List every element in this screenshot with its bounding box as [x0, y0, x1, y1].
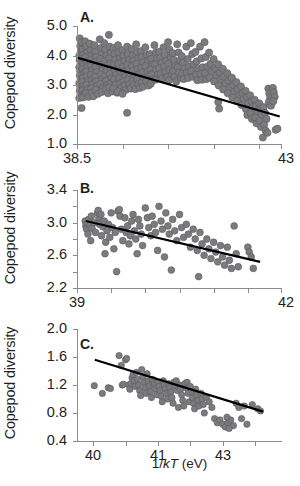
data-point — [139, 366, 145, 372]
panel-c-y-tick-label: 1.2 — [47, 376, 67, 392]
panel-a-x-tick — [77, 145, 78, 149]
panel-a-y-tick-label: 3.0 — [47, 76, 67, 92]
data-point — [161, 254, 168, 261]
panel-b-x-tick — [214, 289, 215, 293]
panel-b-y-tick-label: 2.6 — [47, 246, 67, 262]
x-axis-title: 1/kT (eV) — [77, 456, 282, 471]
data-point — [99, 390, 105, 396]
panel-a-x-tick — [259, 145, 260, 149]
data-point — [197, 229, 204, 236]
data-point — [195, 273, 202, 280]
data-point — [178, 392, 184, 398]
data-point — [126, 241, 133, 248]
panel-c-y-tick — [73, 441, 77, 442]
panel-a-x-tick — [123, 145, 124, 149]
data-point — [91, 383, 97, 389]
data-point — [270, 98, 277, 105]
panel-b-x-tick — [145, 289, 146, 293]
panel-a-scatter-svg — [77, 26, 282, 144]
panel-c-plot-area: 0.40.81.21.62.0404143 — [77, 329, 282, 441]
panel-c-x-tick — [126, 442, 127, 446]
data-point — [158, 218, 165, 225]
data-point — [171, 227, 178, 234]
panel-c-y-tick-label: 1.6 — [47, 348, 67, 364]
panel-a-y-tick — [73, 115, 77, 116]
x-axis-title-suffix: (eV) — [178, 456, 207, 471]
panel-b-y-tick — [73, 239, 77, 240]
panel-c-x-tick — [255, 442, 256, 446]
panel-a-letter: A. — [80, 9, 94, 25]
data-point — [130, 211, 137, 218]
panel-b-x-tick — [111, 289, 112, 293]
data-point — [162, 209, 169, 216]
data-point — [168, 389, 174, 395]
data-point — [216, 105, 223, 112]
data-point — [102, 250, 109, 257]
panel-c-y-tick — [73, 357, 77, 358]
data-point — [209, 404, 215, 410]
panel-b: Copepod diversity B. 2.22.63.03.43942 — [0, 168, 300, 318]
data-point — [108, 209, 115, 216]
data-point — [134, 250, 141, 257]
panel-c-x-axis-line — [77, 441, 282, 442]
data-point — [123, 355, 129, 361]
data-point — [98, 232, 105, 239]
data-point — [228, 265, 235, 272]
data-point — [119, 90, 126, 97]
data-point — [201, 252, 208, 259]
panel-b-plot-area: 2.22.63.03.43942 — [77, 190, 282, 288]
panel-b-x-tick — [180, 289, 181, 293]
data-point — [135, 216, 142, 223]
data-point — [151, 221, 158, 228]
data-point — [201, 39, 208, 46]
panel-b-y-tick-label: 3.0 — [47, 214, 67, 230]
data-point — [224, 414, 230, 420]
data-point — [170, 400, 176, 406]
data-point — [154, 247, 161, 254]
data-point — [142, 205, 149, 212]
panel-b-y-tick — [73, 272, 77, 273]
data-point — [203, 236, 210, 243]
data-point — [121, 214, 128, 221]
panel-b-y-tick-label: 3.4 — [47, 181, 67, 197]
panel-b-y-tick — [73, 190, 77, 191]
panel-a-y-tick-label: 5.0 — [47, 17, 67, 33]
panel-c-y-tick — [73, 329, 77, 330]
panel-a-plot-area: 1.02.03.04.05.038.543 — [77, 26, 282, 144]
panel-a-y-axis-line — [77, 26, 78, 144]
data-point — [176, 211, 183, 218]
panel-c-points-group — [91, 352, 264, 431]
panel-b-y-axis-line — [77, 190, 78, 288]
panel-a-y-tick-label: 4.0 — [47, 47, 67, 63]
data-point — [88, 213, 95, 220]
panel-c-y-tick-label: 2.0 — [47, 320, 67, 336]
panel-a-y-tick-label: 1.0 — [47, 135, 67, 151]
panel-b-y-tick — [73, 255, 77, 256]
data-point — [107, 385, 113, 391]
data-point — [250, 265, 257, 272]
data-point — [226, 425, 232, 431]
data-point — [180, 397, 186, 403]
data-point — [85, 231, 92, 238]
data-point — [105, 31, 112, 38]
data-point — [165, 39, 172, 46]
panel-a: Copepod diversity A. 1.02.03.04.05.038.5… — [0, 0, 300, 168]
data-point — [168, 267, 175, 274]
data-point — [98, 211, 105, 218]
data-point — [156, 203, 163, 210]
data-point — [136, 223, 143, 230]
panel-c-x-tick — [93, 442, 94, 446]
data-point — [149, 213, 156, 220]
panel-b-y-tick — [73, 206, 77, 207]
panel-a-x-tick — [281, 145, 282, 149]
data-point — [139, 242, 146, 249]
panel-b-x-tick — [77, 289, 78, 293]
panel-b-y-axis-title: Copepod diversity — [2, 153, 18, 303]
data-point — [106, 234, 113, 241]
data-point — [235, 263, 242, 270]
panel-b-x-tick — [281, 289, 282, 293]
data-point — [151, 42, 158, 49]
data-point — [78, 104, 85, 111]
x-axis-title-italic: kT — [163, 456, 178, 471]
data-point — [124, 109, 131, 116]
